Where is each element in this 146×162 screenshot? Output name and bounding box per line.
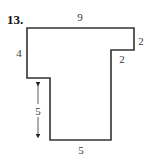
- label-left-lower-height: 5: [35, 105, 41, 117]
- label-right-notch-height: 2: [138, 35, 144, 47]
- label-left-upper-height: 4: [16, 47, 22, 59]
- shape-outline: [27, 28, 134, 140]
- problem-number-text: 13.: [7, 12, 23, 27]
- problem-number: 13.: [7, 12, 23, 27]
- label-bottom-width: 5: [78, 144, 84, 156]
- figure-canvas: 13. 9 4 2 2 5 5: [0, 0, 146, 162]
- label-right-notch-width: 2: [119, 53, 125, 65]
- label-top-width: 9: [77, 11, 83, 23]
